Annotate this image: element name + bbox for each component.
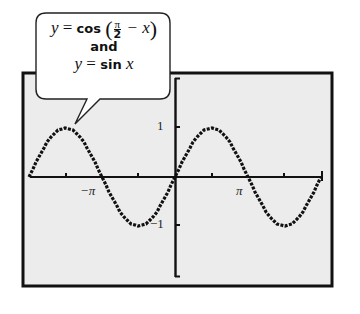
sin-function: sin — [100, 57, 121, 72]
minus-x: − x — [122, 18, 150, 37]
x-tick-label-pi: π — [236, 183, 243, 199]
x-tick-label-neg-pi: −π — [80, 183, 95, 199]
eq-equals: = — [82, 54, 100, 73]
x-variable: x — [122, 54, 134, 73]
eq-equals: = — [58, 18, 76, 37]
equation-sin: y = sin x — [38, 54, 170, 75]
callout-label: y = cos (π2 − x) and y = sin x — [38, 18, 170, 75]
y-tick-label-neg1: −1 — [150, 216, 164, 232]
equation-cos: y = cos (π2 − x) — [38, 18, 170, 40]
right-paren: ) — [150, 16, 157, 41]
cos-function: cos — [77, 21, 101, 36]
and-text: and — [38, 40, 170, 54]
eq-lhs: y — [75, 54, 83, 73]
left-paren: ( — [105, 16, 112, 41]
y-tick-label-1: 1 — [157, 118, 164, 134]
pi-over-2-fraction: π2 — [114, 19, 122, 40]
plot-frame — [23, 73, 332, 286]
